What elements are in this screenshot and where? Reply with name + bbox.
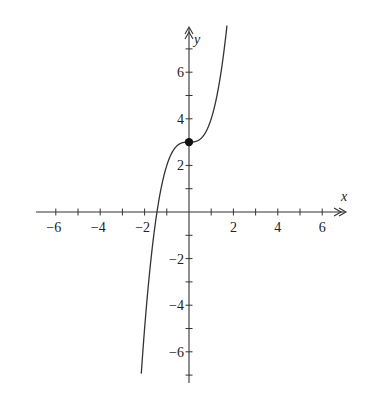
y-tick-label: −4 bbox=[169, 298, 184, 313]
x-axis-label: x bbox=[340, 189, 348, 204]
x-tick-label: −6 bbox=[46, 220, 61, 235]
axes bbox=[36, 27, 346, 383]
y-tick-label: 6 bbox=[177, 65, 184, 80]
y-tick-label: 4 bbox=[177, 112, 184, 127]
x-tick-label: 6 bbox=[319, 220, 326, 235]
function-graph: −6−4−2246642−2−4−6 x y bbox=[0, 0, 380, 411]
cubic-curve bbox=[141, 26, 227, 374]
x-tick-label: −2 bbox=[135, 220, 150, 235]
x-tick-label: 2 bbox=[230, 220, 237, 235]
x-tick-label: −4 bbox=[91, 220, 106, 235]
y-tick-label: −2 bbox=[169, 252, 184, 267]
inflection-point bbox=[185, 138, 193, 146]
y-axis-label: y bbox=[192, 32, 201, 47]
y-tick-label: 2 bbox=[177, 158, 184, 173]
y-tick-label: −6 bbox=[169, 345, 184, 360]
x-tick-label: 4 bbox=[274, 220, 281, 235]
